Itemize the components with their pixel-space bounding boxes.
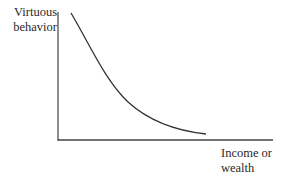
demand-curve <box>71 13 206 134</box>
y-axis-label: Virtuous behavior <box>3 5 57 35</box>
x-axis-label-line2: wealth <box>221 161 285 176</box>
y-axis-label-line2: behavior <box>3 20 57 35</box>
x-axis-label-line1: Income or <box>221 146 285 161</box>
y-axis-label-line1: Virtuous <box>3 5 57 20</box>
x-axis-label: Income or wealth <box>221 146 285 176</box>
